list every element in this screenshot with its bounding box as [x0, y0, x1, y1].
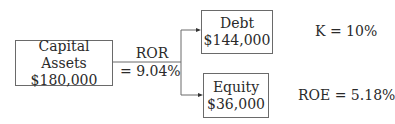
capital-assets-value: $180,000 [16, 72, 112, 89]
debt-box: Debt $144,000 [201, 10, 273, 54]
capital-assets-box: Capital Assets $180,000 [15, 40, 113, 86]
equity-value: $36,000 [204, 96, 268, 113]
equity-box: Equity $36,000 [203, 73, 269, 118]
equity-rate: ROE = 5.18% [298, 87, 395, 104]
capital-assets-title: Capital Assets [16, 38, 112, 72]
debt-rate: K = 10% [315, 23, 377, 40]
ror-value: = 9.04% [120, 63, 176, 80]
debt-title: Debt [202, 15, 272, 32]
equity-title: Equity [204, 79, 268, 96]
ror-label: ROR [130, 45, 174, 62]
debt-value: $144,000 [202, 32, 272, 49]
